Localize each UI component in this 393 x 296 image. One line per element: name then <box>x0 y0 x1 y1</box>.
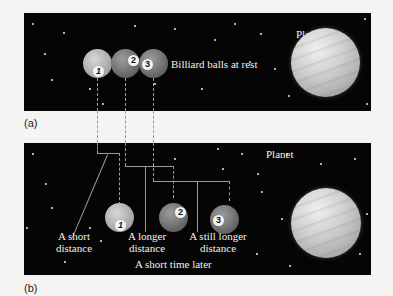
longer-distance-leader <box>145 166 146 232</box>
longer-distance-label: A longer distance <box>120 230 174 254</box>
guide-line-ball-1 <box>97 78 98 111</box>
panel-a-label: (a) <box>24 117 37 129</box>
ball-number: 3 <box>213 215 224 226</box>
billiard-ball-1: 1 <box>83 49 112 78</box>
star <box>359 253 361 255</box>
panel-b-label: (b) <box>24 282 37 294</box>
star <box>354 158 356 160</box>
guide-line-ball-3 <box>153 143 154 181</box>
star <box>222 168 224 170</box>
star <box>214 39 216 41</box>
short-distance-label: A short distance <box>44 230 104 254</box>
label-line: A still longer <box>176 230 260 242</box>
guide-line-ball-3 <box>153 78 154 111</box>
star <box>257 173 259 175</box>
star <box>241 153 243 155</box>
billiard-ball-2: 2 <box>111 49 140 78</box>
guide-line-ball-3 <box>153 111 154 143</box>
star <box>260 33 262 35</box>
star <box>217 148 219 150</box>
guide-line-moved-ball-1 <box>119 153 120 205</box>
guide-line-ball-2 <box>125 143 126 166</box>
billiard-ball-1: 1 <box>105 203 134 232</box>
label-line: distance <box>44 242 104 254</box>
ball-number: 2 <box>128 55 139 66</box>
label-line: distance <box>120 242 174 254</box>
still-longer-distance-marker <box>153 181 229 182</box>
panel-a-space-scene: 1 2 3 Billiard balls at rest Planet <box>24 13 371 111</box>
star <box>102 103 104 105</box>
star <box>201 88 203 90</box>
star <box>51 79 53 81</box>
planet <box>291 188 361 258</box>
star <box>281 218 283 220</box>
longer-distance-marker <box>125 166 173 167</box>
label-line: A longer <box>120 230 174 242</box>
star <box>63 32 65 34</box>
star <box>274 68 276 70</box>
short-distance-leader <box>72 155 108 238</box>
star <box>26 227 28 229</box>
star <box>364 18 366 20</box>
time-caption: A short time later <box>135 258 212 270</box>
star <box>32 23 34 25</box>
star <box>366 213 368 215</box>
star <box>51 207 53 209</box>
label-line: distance <box>176 242 260 254</box>
star <box>174 28 176 30</box>
still-longer-distance-leader <box>197 181 198 232</box>
star <box>32 153 34 155</box>
star <box>366 103 368 105</box>
star <box>234 23 236 25</box>
billiard-ball-2: 2 <box>159 203 188 232</box>
panel-b-space-scene: 1 2 3 A short distance A longer distance… <box>24 143 371 275</box>
star <box>288 95 290 97</box>
star <box>134 25 136 27</box>
star <box>89 227 91 229</box>
guide-line-ball-1 <box>97 111 98 143</box>
star <box>289 265 291 267</box>
planet <box>291 28 360 97</box>
guide-line-ball-2 <box>125 78 126 111</box>
label-line: A short <box>44 230 104 242</box>
still-longer-distance-label: A still longer distance <box>176 230 260 254</box>
short-distance-marker <box>97 153 119 154</box>
star <box>45 183 47 185</box>
ball-number: 2 <box>175 207 186 218</box>
star <box>320 163 322 165</box>
star <box>154 83 156 85</box>
guide-line-moved-ball-2 <box>173 166 174 198</box>
ball-number: 3 <box>142 59 153 70</box>
star <box>64 261 66 263</box>
star <box>261 191 263 193</box>
guide-line-moved-ball-3 <box>229 181 230 201</box>
star <box>174 158 176 160</box>
balls-at-rest-label: Billiard balls at rest <box>171 58 257 70</box>
star <box>44 53 46 55</box>
guide-line-ball-2 <box>125 111 126 143</box>
billiard-ball-3: 3 <box>139 49 168 78</box>
guide-line-ball-1 <box>97 143 98 153</box>
planet-label: Planet <box>266 148 294 160</box>
star <box>89 88 91 90</box>
ball-number: 1 <box>93 66 104 77</box>
